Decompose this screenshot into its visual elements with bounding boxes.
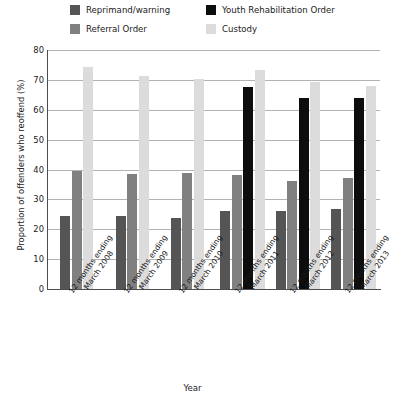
y-tick-label: 60 [14, 106, 44, 114]
y-tick-label: 40 [14, 166, 44, 174]
bar [243, 87, 253, 289]
bar [60, 216, 70, 289]
y-tick-label: 0 [14, 285, 44, 293]
y-tick-label: 70 [14, 76, 44, 84]
y-axis-ticks: 01020304050607080 [10, 50, 44, 289]
y-tick-label: 80 [14, 46, 44, 54]
page-footer-fragment [0, 399, 385, 403]
y-tick-label: 50 [14, 136, 44, 144]
y-tick-label: 10 [14, 255, 44, 263]
x-axis-title: Year [0, 383, 385, 393]
x-axis-labels: 12 months endingMarch 200812 months endi… [48, 290, 380, 380]
y-tick-label: 30 [14, 195, 44, 203]
y-tick-label: 20 [14, 225, 44, 233]
